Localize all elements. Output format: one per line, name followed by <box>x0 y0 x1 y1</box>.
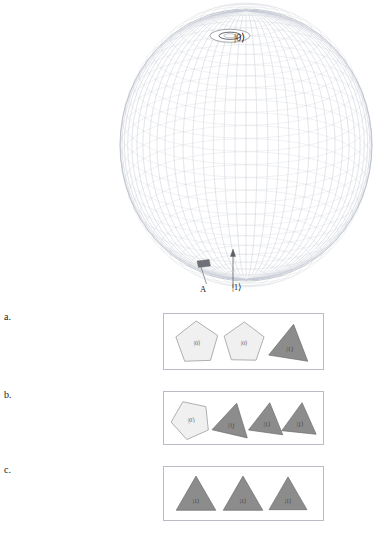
shape-state-label: |1⟩ <box>286 345 293 352</box>
sphere-marker-a-label: A <box>200 284 206 294</box>
triangle-shape: |1⟩ <box>212 403 247 438</box>
shape-state-label: |0⟩ <box>241 339 247 346</box>
triangle-shape: |1⟩ <box>176 476 216 510</box>
pentagon-shape: |0⟩ <box>224 322 264 360</box>
bloch-sphere-graphic <box>0 0 386 305</box>
row-a-shapes: |0⟩|0⟩|1⟩ <box>164 314 325 371</box>
row-b-shapes: |0⟩|1⟩|1⟩|1⟩ <box>164 392 325 446</box>
triangle-shape: |1⟩ <box>269 477 307 510</box>
triangle-shape: |1⟩ <box>282 403 316 435</box>
row-a: a. |0⟩|0⟩|1⟩ <box>0 305 386 377</box>
pentagon-shape: |0⟩ <box>171 402 208 440</box>
row-b: b. |0⟩|1⟩|1⟩|1⟩ <box>0 383 386 453</box>
shape-state-label: |1⟩ <box>240 497 246 504</box>
row-a-panel: |0⟩|0⟩|1⟩ <box>163 313 324 370</box>
bloch-sphere-figure: |0⟩ |1⟩ A <box>0 0 386 305</box>
row-b-panel: |0⟩|1⟩|1⟩|1⟩ <box>163 391 324 445</box>
triangle-shape: |1⟩ <box>223 476 263 510</box>
row-b-letter: b. <box>4 389 12 400</box>
triangle-shape: |1⟩ <box>269 324 308 361</box>
shape-state-label: |1⟩ <box>296 420 303 427</box>
row-c: c. |1⟩|1⟩|1⟩ <box>0 458 386 530</box>
shape-state-label: |1⟩ <box>263 420 270 427</box>
pentagon-shape: |0⟩ <box>176 321 218 361</box>
row-c-shapes: |1⟩|1⟩|1⟩ <box>164 467 325 522</box>
row-a-letter: a. <box>4 311 11 322</box>
sphere-south-pole-arrow-label: |1⟩ <box>232 283 242 292</box>
shape-state-label: |1⟩ <box>228 421 235 429</box>
row-c-letter: c. <box>4 464 11 475</box>
shape-state-label: |0⟩ <box>194 339 200 346</box>
row-c-panel: |1⟩|1⟩|1⟩ <box>163 466 324 521</box>
shape-state-label: |1⟩ <box>193 497 199 504</box>
triangle-shape: |1⟩ <box>249 403 283 435</box>
shape-state-label: |1⟩ <box>285 497 291 504</box>
sphere-north-pole-label: |0⟩ <box>234 33 245 44</box>
